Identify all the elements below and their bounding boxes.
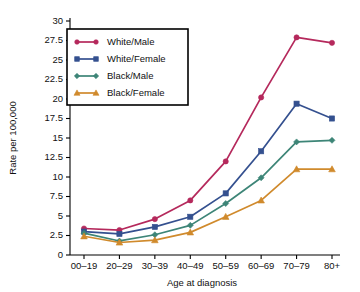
y-tick-label: 30: [52, 15, 63, 26]
y-tick-label: 5: [58, 210, 63, 221]
legend-label: Black/Female: [107, 87, 165, 98]
y-tick-label: 27.5: [45, 34, 64, 45]
data-point-square: [294, 101, 299, 106]
y-axis-title: Rate per 100,000: [7, 101, 18, 174]
data-point-square: [117, 231, 122, 236]
data-point-square: [188, 214, 193, 219]
x-tick-label: 40–49: [177, 260, 203, 271]
data-point-circle: [223, 159, 228, 164]
chart-container: 02.557.51012.51517.52022.52527.530 00–19…: [0, 0, 360, 292]
x-tick-label: 80+: [324, 260, 341, 271]
data-point-circle: [188, 198, 193, 203]
data-point-square: [152, 224, 157, 229]
y-tick-label: 0: [58, 249, 63, 260]
line-chart: 02.557.51012.51517.52022.52527.530 00–19…: [0, 0, 360, 292]
y-tick-label: 15: [52, 132, 63, 143]
data-point-circle: [152, 217, 157, 222]
y-tick-label: 10: [52, 171, 63, 182]
x-tick-label: 70–79: [283, 260, 309, 271]
data-point-circle: [329, 40, 334, 45]
x-tick-label: 50–59: [213, 260, 239, 271]
legend-label: White/Male: [107, 36, 155, 47]
data-point-square: [223, 191, 228, 196]
x-tick-label: 20–29: [106, 260, 132, 271]
data-point-square: [259, 149, 264, 154]
y-axis-ticks: 02.557.51012.51517.52022.52527.530: [45, 15, 71, 260]
data-point-circle: [94, 40, 99, 45]
data-point-circle: [75, 40, 80, 45]
data-point-square: [75, 57, 80, 62]
y-tick-label: 12.5: [45, 151, 64, 162]
y-tick-label: 7.5: [50, 190, 63, 201]
y-tick-label: 25: [52, 54, 63, 65]
x-tick-label: 60–69: [248, 260, 274, 271]
x-axis-ticks: 00–1920–2930–3940–4950–5960–6970–7980+: [71, 255, 341, 271]
y-tick-label: 22.5: [45, 73, 64, 84]
y-tick-label: 20: [52, 93, 63, 104]
x-tick-label: 00–19: [71, 260, 97, 271]
data-point-square: [329, 116, 334, 121]
data-point-square: [94, 57, 99, 62]
x-axis-title: Age at diagnosis: [167, 277, 237, 288]
data-point-circle: [259, 95, 264, 100]
x-tick-label: 30–39: [142, 260, 168, 271]
y-tick-label: 2.5: [50, 229, 63, 240]
legend-label: White/Female: [107, 53, 166, 64]
legend-label: Black/Male: [107, 70, 153, 81]
chart-legend: White/MaleWhite/FemaleBlack/MaleBlack/Fe…: [67, 29, 188, 105]
series-line: [84, 140, 332, 241]
data-point-circle: [294, 35, 299, 40]
data-point-diamond: [329, 137, 335, 143]
y-tick-label: 17.5: [45, 112, 64, 123]
